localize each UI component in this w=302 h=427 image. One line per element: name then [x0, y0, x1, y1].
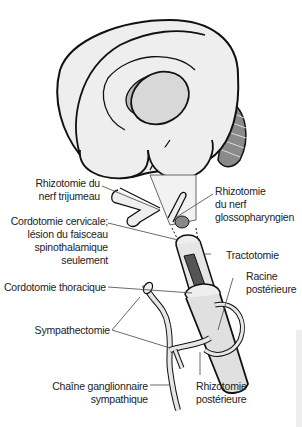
label-line: du nerf [215, 198, 294, 211]
label-line: Sympathectomie [20, 324, 110, 337]
label-line: sympathique [40, 393, 148, 406]
page-edge [296, 330, 302, 427]
label-cordotomie-cervicale: Cordotomie cervicale; lésion du faisceau… [2, 215, 108, 267]
label-line: Tractotomie [226, 249, 279, 262]
label-line: Racine [246, 270, 296, 283]
label-racine-posterieure: Racine postérieure [246, 270, 296, 296]
label-tractotomie: Tractotomie [226, 249, 279, 262]
label-line: postérieure [196, 393, 247, 406]
label-line: spinothalamique [2, 241, 108, 254]
label-line: nerf trijumeau [28, 190, 100, 203]
label-line: glossopharyngien [215, 211, 294, 224]
label-line: Cordotomie cervicale; [2, 215, 108, 228]
label-line: postérieure [246, 283, 296, 296]
brain [57, 20, 238, 179]
label-rhizotomie-glossopharyngien: Rhizotomie du nerf glossopharyngien [215, 185, 294, 224]
label-line: Chaîne ganglionnaire [40, 380, 148, 393]
label-sympathectomie: Sympathectomie [20, 324, 110, 337]
label-line: seulement [2, 254, 108, 267]
label-rhizotomie-trijumeau: Rhizotomie du nerf trijumeau [28, 177, 100, 203]
label-line: Rhizotomie [215, 185, 294, 198]
label-line: Rhizotomie [196, 380, 247, 393]
label-line: Cordotomie thoracique [2, 281, 106, 294]
label-cordotomie-thoracique: Cordotomie thoracique [2, 281, 106, 294]
label-line: Rhizotomie du [28, 177, 100, 190]
label-chaine-ganglionnaire: Chaîne ganglionnaire sympathique [40, 380, 148, 406]
label-line: lésion du faisceau [2, 228, 108, 241]
label-rhizotomie-posterieure: Rhizotomie postérieure [196, 380, 247, 406]
